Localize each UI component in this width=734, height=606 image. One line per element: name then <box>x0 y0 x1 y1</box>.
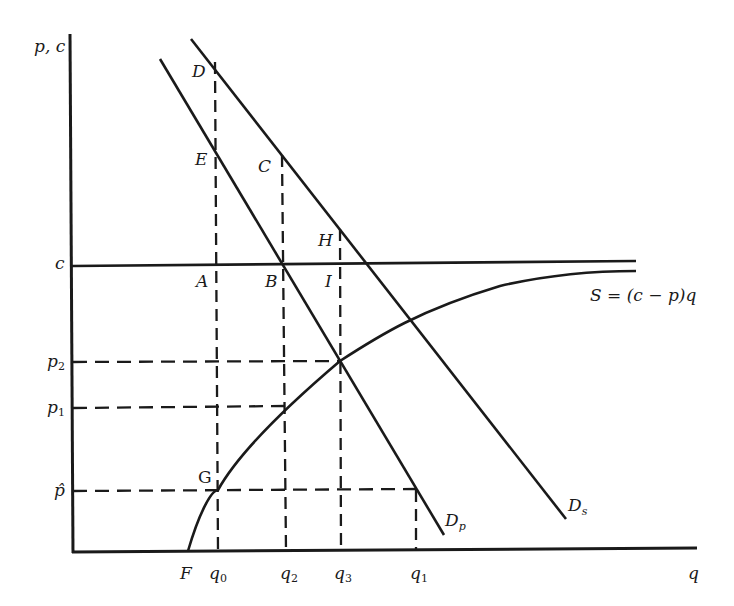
diagram-canvas: p, c q c p2 p1 p̂ F q0 q2 q3 q1 D E C H … <box>0 0 734 606</box>
x-tick-F: F <box>180 565 192 582</box>
point-I: I <box>325 273 332 290</box>
q3-dashed <box>340 229 341 550</box>
y-tick-p2: p2 <box>47 353 65 372</box>
point-D: D <box>192 63 206 80</box>
y-axis <box>70 34 73 553</box>
x-axis <box>72 548 697 552</box>
ds-curve <box>191 39 566 519</box>
x-tick-q1: q1 <box>410 565 428 584</box>
y-tick-p1: p1 <box>47 399 65 418</box>
curve-label-S: S = (c − p)q <box>590 287 696 304</box>
x-tick-q3: q3 <box>334 565 352 584</box>
dp-curve <box>160 59 444 535</box>
curve-label-Ds: Ds <box>568 497 587 517</box>
point-A: A <box>196 273 208 290</box>
point-G: G <box>198 469 212 486</box>
x-tick-q0: q0 <box>209 565 227 584</box>
point-E: E <box>195 151 207 168</box>
q0-dashed <box>215 62 218 551</box>
y-tick-phat: p̂ <box>54 482 65 499</box>
y-axis-label: p, c <box>34 38 65 55</box>
point-H: H <box>318 232 333 249</box>
point-B: B <box>265 273 278 290</box>
p1-dashed <box>73 406 285 408</box>
curve-label-Dp: Dp <box>445 512 466 532</box>
phat-dashed <box>73 489 416 491</box>
c-line <box>72 261 636 266</box>
y-tick-c: c <box>55 255 65 272</box>
p2-dashed <box>73 361 340 362</box>
point-C: C <box>258 158 271 175</box>
x-axis-label: q <box>688 565 699 582</box>
x-tick-q2: q2 <box>280 565 298 584</box>
